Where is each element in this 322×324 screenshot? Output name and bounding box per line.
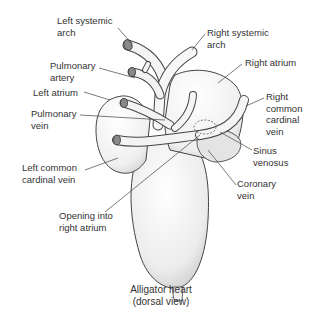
label-left-atrium: Left atrium — [33, 87, 78, 99]
label-right-common-cardinal-vein: Right common cardinal vein — [266, 91, 302, 137]
label-coronary-vein: Coronary vein — [237, 178, 276, 201]
label-right-atrium: Right atrium — [245, 57, 296, 69]
label-pulmonary-vein: Pulmonary vein — [31, 108, 76, 131]
label-left-common-cardinal-vein: Left common cardinal vein — [22, 162, 77, 185]
label-left-systemic-arch: Left systemic arch — [57, 15, 112, 38]
label-sinus-venosus: Sinus venosus — [253, 145, 288, 168]
label-pulmonary-artery: Pulmonary artery — [50, 60, 95, 83]
figure-caption: Alligator heart (dorsal view) — [0, 284, 322, 308]
label-opening-into-right-atrium: Opening into right atrium — [59, 210, 113, 233]
label-right-systemic-arch: Right systemic arch — [207, 27, 269, 50]
